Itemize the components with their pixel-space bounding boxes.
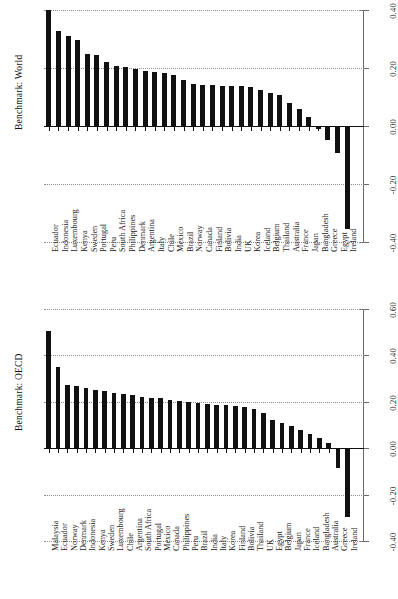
- bar: [75, 40, 80, 126]
- value-axis-tick: [364, 68, 369, 69]
- category-label: Malaysia: [52, 521, 60, 551]
- category-label: Portugal: [100, 224, 108, 252]
- bar: [65, 385, 70, 448]
- bar: [143, 71, 148, 126]
- category-tick: [299, 127, 300, 131]
- category-label: Luxembourg: [117, 508, 125, 551]
- bar: [56, 31, 61, 126]
- bar: [261, 413, 266, 448]
- category-tick: [338, 127, 339, 131]
- category-tick: [67, 449, 68, 453]
- value-axis-tick: [364, 541, 369, 542]
- bar: [289, 426, 294, 448]
- bar: [177, 401, 182, 449]
- category-label: Ecuador: [52, 224, 60, 252]
- bar: [46, 331, 51, 448]
- value-axis-line-oecd: [363, 309, 364, 541]
- category-tick: [273, 449, 274, 453]
- bar: [297, 109, 302, 126]
- bar: [104, 62, 109, 126]
- category-tick: [126, 127, 127, 131]
- category-tick: [114, 449, 115, 453]
- bar: [186, 402, 191, 448]
- gridline: [44, 309, 364, 310]
- category-label: Bangladesh: [323, 512, 331, 551]
- value-axis-tick: [364, 242, 369, 243]
- category-label: Indonesia: [62, 220, 70, 252]
- category-tick: [155, 127, 156, 131]
- category-tick: [95, 449, 96, 453]
- bar: [224, 405, 229, 448]
- category-label: Kenya: [99, 529, 107, 551]
- category-tick: [212, 127, 213, 131]
- bar: [74, 386, 79, 448]
- category-tick: [207, 449, 208, 453]
- category-tick: [226, 449, 227, 453]
- category-label: Denmark: [139, 221, 147, 252]
- category-tick: [49, 449, 50, 453]
- value-axis-tick: [364, 448, 369, 449]
- category-label: Brazil: [201, 531, 209, 551]
- category-label: Finland: [216, 227, 224, 252]
- category-tick: [49, 127, 50, 131]
- category-tick: [145, 127, 146, 131]
- bar: [158, 398, 163, 448]
- bar: [229, 86, 234, 126]
- value-axis-tick: [364, 402, 369, 403]
- bar: [220, 86, 225, 126]
- category-tick: [174, 127, 175, 131]
- category-label: Peru: [110, 237, 118, 252]
- category-label: Brazil: [187, 232, 195, 252]
- bar: [317, 438, 322, 448]
- value-axis-tick: [364, 309, 369, 310]
- category-label: Egypt: [341, 232, 349, 252]
- category-label: France: [304, 528, 312, 551]
- category-tick: [347, 127, 348, 131]
- bar: [102, 391, 107, 449]
- bar: [258, 90, 263, 126]
- value-axis-tick-label: 0.40: [388, 349, 398, 365]
- category-tick: [318, 127, 319, 131]
- bar: [248, 87, 253, 126]
- category-label: Sweden: [91, 226, 99, 252]
- category-tick: [105, 449, 106, 453]
- bar: [200, 85, 205, 126]
- category-tick: [123, 449, 124, 453]
- bar: [94, 55, 99, 126]
- bar: [345, 126, 350, 229]
- gridline: [44, 10, 364, 11]
- category-tick: [241, 127, 242, 131]
- category-label: UK: [267, 539, 275, 551]
- category-tick: [86, 449, 87, 453]
- category-tick: [328, 127, 329, 131]
- category-tick: [251, 127, 252, 131]
- category-label: Australia: [293, 222, 301, 252]
- category-tick: [142, 449, 143, 453]
- category-label: Japan: [295, 532, 303, 551]
- bar: [308, 434, 313, 448]
- bar: [149, 398, 154, 449]
- category-tick: [193, 127, 194, 131]
- category-tick: [58, 127, 59, 131]
- category-label: Finland: [239, 526, 247, 551]
- category-tick: [270, 127, 271, 131]
- bar: [268, 93, 273, 126]
- value-axis-tick-label: 0.60: [388, 302, 398, 318]
- category-label: Luxembourg: [71, 209, 79, 252]
- value-axis-tick-label: -0.40: [388, 234, 398, 253]
- category-tick: [291, 449, 292, 453]
- bar: [239, 86, 244, 126]
- category-label: Thailand: [257, 522, 265, 552]
- category-label: Italy: [220, 536, 228, 551]
- category-tick: [151, 449, 152, 453]
- bar: [252, 409, 257, 448]
- bar: [123, 67, 128, 126]
- category-tick: [245, 449, 246, 453]
- category-label: Mexico: [177, 227, 185, 252]
- category-tick: [58, 449, 59, 453]
- category-tick: [289, 127, 290, 131]
- category-label: Norway: [71, 524, 79, 551]
- category-tick: [189, 449, 190, 453]
- value-axis-tick: [364, 10, 369, 11]
- panel-benchmark-world: Benchmark: World 0.400.200.00-0.20-0.40 …: [0, 0, 392, 300]
